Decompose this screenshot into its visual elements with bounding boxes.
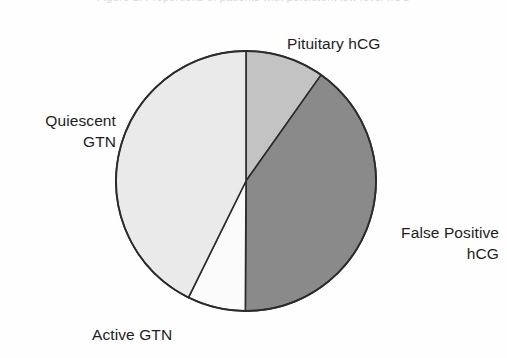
slice-label-false-positive-hcg-line1: False Positive xyxy=(401,222,499,243)
pie-chart-plot-area xyxy=(0,0,507,358)
pie-slices-group xyxy=(116,51,376,311)
slice-label-active-gtn-line1: Active GTN xyxy=(92,324,172,345)
slice-label-active-gtn: Active GTN xyxy=(92,324,172,345)
slice-label-quiescent-gtn-line1: Quiescent xyxy=(8,110,116,131)
pie-chart-svg xyxy=(0,0,507,358)
slice-label-false-positive-hcg-line2: hCG xyxy=(401,243,499,264)
slice-label-false-positive-hcg: False Positive hCG xyxy=(401,222,499,264)
slice-label-quiescent-gtn-line2: GTN xyxy=(8,131,116,152)
slice-label-quiescent-gtn: Quiescent GTN xyxy=(8,110,116,152)
slice-label-pituitary-hcg-line1: Pituitary hCG xyxy=(287,33,380,54)
slice-label-pituitary-hcg: Pituitary hCG xyxy=(287,33,380,54)
pie-chart-figure: Figure 1. Proportions of patients with p… xyxy=(0,0,507,358)
